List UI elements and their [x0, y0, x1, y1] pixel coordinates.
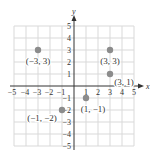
x-tick: −4 [21, 88, 30, 97]
point-labels: (−3, 3) (3, 3) (3, 1) (1, −1) (−1, −2) [26, 56, 134, 123]
x-tick: −5 [8, 88, 17, 97]
x-tick-labels: −5 −4 −3 −2 −1 1 2 3 4 5 [8, 88, 136, 97]
point-label: (−3, 3) [26, 56, 51, 66]
coordinate-plane: x y −5 −4 −3 −2 −1 1 2 3 4 5 5 4 3 2 1 −… [0, 0, 157, 156]
y-tick: 3 [67, 46, 71, 55]
point-label: (1, −1) [81, 104, 106, 114]
y-tick: −3 [62, 118, 71, 127]
y-tick: −1 [62, 94, 71, 103]
y-tick: 1 [67, 70, 71, 79]
y-axis-label: y [71, 7, 76, 16]
point-label: (3, 1) [114, 77, 134, 87]
y-tick: 5 [67, 22, 71, 31]
x-tick: 4 [120, 88, 124, 97]
point-1-neg1 [83, 95, 89, 101]
y-tick: 4 [67, 34, 71, 43]
y-tick: −5 [62, 142, 71, 151]
x-tick: 5 [132, 88, 136, 97]
x-tick: 2 [96, 88, 100, 97]
point-label: (3, 3) [100, 56, 120, 66]
y-tick: −4 [62, 130, 71, 139]
x-tick: −3 [33, 88, 42, 97]
point-neg3-3 [35, 47, 41, 53]
x-axis-arrow-icon [138, 84, 144, 89]
point-label: (−1, −2) [27, 113, 57, 123]
x-tick: −2 [45, 88, 54, 97]
x-tick: 3 [108, 88, 112, 97]
y-tick: 2 [67, 58, 71, 67]
x-axis-label: x [145, 82, 150, 91]
point-neg1-neg2 [59, 107, 65, 113]
point-3-3 [107, 47, 113, 53]
point-3-1 [107, 71, 113, 77]
